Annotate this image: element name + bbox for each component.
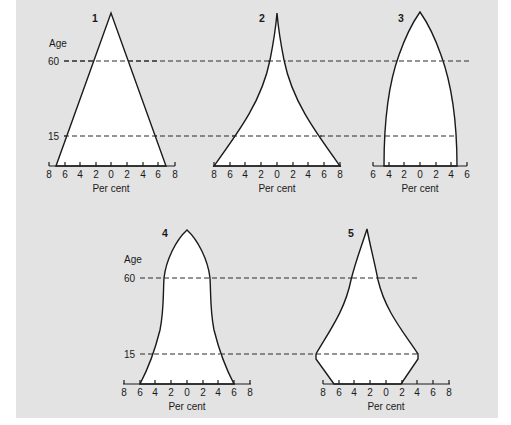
svg-text:2: 2	[168, 387, 174, 398]
svg-text:2: 2	[433, 169, 439, 180]
age-15-label-1: 15	[48, 131, 60, 142]
pyramid-5	[316, 229, 450, 384]
svg-text:2: 2	[124, 169, 130, 180]
svg-text:6: 6	[231, 387, 237, 398]
age-60-label-4: 60	[124, 273, 136, 284]
panel-1-label: 1	[92, 12, 98, 24]
panel-2-label: 2	[259, 12, 265, 24]
svg-text:4: 4	[386, 169, 392, 180]
svg-text:0: 0	[184, 387, 190, 398]
svg-text:2: 2	[290, 169, 296, 180]
svg-text:4: 4	[351, 387, 357, 398]
pyramid-2	[213, 13, 341, 166]
svg-text:4: 4	[140, 169, 146, 180]
svg-text:6: 6	[62, 169, 68, 180]
svg-text:2: 2	[399, 387, 405, 398]
svg-text:8: 8	[320, 387, 326, 398]
pyramid-3-shape	[384, 12, 457, 166]
pyramid-4-shape	[140, 230, 234, 384]
pyramid-1-shape	[56, 13, 166, 166]
svg-text:0: 0	[274, 169, 280, 180]
svg-text:6: 6	[321, 169, 327, 180]
ticks-5: 86 42 02 46 8	[320, 387, 452, 398]
svg-text:8: 8	[446, 387, 452, 398]
ticks-4: 86 42 02 46 8	[121, 387, 253, 398]
svg-text:0: 0	[108, 169, 114, 180]
panel-3-label: 3	[398, 12, 404, 24]
age-15-label-4: 15	[124, 349, 136, 360]
svg-text:8: 8	[46, 169, 52, 180]
panel-5-label: 5	[348, 227, 354, 239]
svg-text:6: 6	[336, 387, 342, 398]
x-axis-title-4: Per cent	[168, 401, 205, 412]
svg-text:2: 2	[367, 387, 373, 398]
svg-text:8: 8	[172, 169, 178, 180]
svg-text:4: 4	[448, 169, 454, 180]
svg-text:8: 8	[337, 169, 343, 180]
svg-text:4: 4	[215, 387, 221, 398]
svg-text:6: 6	[370, 169, 376, 180]
svg-text:6: 6	[430, 387, 436, 398]
svg-text:2: 2	[93, 169, 99, 180]
age-axis-label-4: Age	[124, 254, 142, 265]
svg-text:6: 6	[137, 387, 143, 398]
population-pyramids-figure: 1 2 3 4 5 Age 60 15 Age 60 15 86 42 02 4…	[0, 0, 511, 425]
pyramid-5-shape	[316, 229, 418, 384]
svg-text:6: 6	[155, 169, 161, 180]
svg-text:4: 4	[242, 169, 248, 180]
pyramid-1	[49, 13, 175, 166]
ticks-1: 86 42 02 46 8	[46, 169, 178, 180]
svg-text:4: 4	[77, 169, 83, 180]
ticks-2: 86 42 02 46 8	[211, 169, 343, 180]
pyramid-2-shape	[214, 13, 340, 166]
x-axis-title-1: Per cent	[92, 183, 129, 194]
svg-text:6: 6	[227, 169, 233, 180]
svg-text:8: 8	[121, 387, 127, 398]
svg-text:8: 8	[211, 169, 217, 180]
svg-text:2: 2	[258, 169, 264, 180]
svg-text:2: 2	[401, 169, 407, 180]
x-axis-title-2: Per cent	[258, 183, 295, 194]
svg-text:6: 6	[464, 169, 470, 180]
x-axis-title-5: Per cent	[367, 401, 404, 412]
svg-text:4: 4	[305, 169, 311, 180]
svg-text:0: 0	[417, 169, 423, 180]
svg-text:2: 2	[200, 387, 206, 398]
panel-4-label: 4	[162, 227, 168, 239]
pyramid-4	[123, 230, 251, 384]
x-axis-title-3: Per cent	[401, 183, 438, 194]
svg-text:4: 4	[152, 387, 158, 398]
svg-text:4: 4	[414, 387, 420, 398]
svg-text:0: 0	[383, 387, 389, 398]
ticks-3: 64 20 24 6	[370, 169, 470, 180]
age-axis-label-1: Age	[49, 38, 67, 49]
pyramid-3	[373, 12, 467, 166]
svg-text:8: 8	[247, 387, 253, 398]
age-60-label-1: 60	[48, 56, 60, 67]
